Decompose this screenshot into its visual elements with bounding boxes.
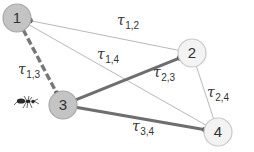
pheromone-label-1-4: τ1,4 xyxy=(97,46,120,65)
edges-layer xyxy=(23,18,214,133)
pheromone-label-2-4: τ2,4 xyxy=(207,84,230,103)
pheromone-label-1-3: τ1,3 xyxy=(18,61,41,80)
node-label: 3 xyxy=(59,96,67,113)
ant-icon xyxy=(14,96,39,108)
node-3: 3 xyxy=(49,91,77,119)
pheromone-label-1-2: τ1,2 xyxy=(117,12,140,31)
node-1: 1 xyxy=(3,4,31,32)
edge-labels-layer: τ1,2τ1,4τ1,3τ2,3τ2,4τ3,4 xyxy=(18,12,230,137)
node-label: 4 xyxy=(214,123,222,140)
node-label: 2 xyxy=(188,44,196,61)
edge-1-3 xyxy=(23,29,57,93)
node-label: 1 xyxy=(13,9,21,26)
aco-graph-diagram: 1234 τ1,2τ1,4τ1,3τ2,3τ2,4τ3,4 xyxy=(0,0,254,152)
node-4: 4 xyxy=(204,118,232,146)
pheromone-label-2-3: τ2,3 xyxy=(153,64,176,83)
node-2: 2 xyxy=(178,39,206,67)
